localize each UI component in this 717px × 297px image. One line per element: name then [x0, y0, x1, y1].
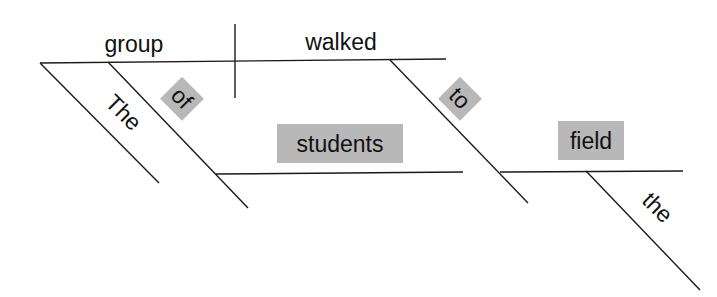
sentence-diagram: group walked The of students to field th…: [0, 0, 717, 297]
word-walked: walked: [304, 29, 377, 55]
word-group: group: [105, 31, 164, 57]
word-field: field: [570, 128, 612, 154]
modifier-line-the: [40, 63, 159, 183]
baseline: [40, 59, 446, 63]
object-line-field: [500, 171, 683, 172]
word-the-field: the: [637, 187, 678, 228]
object-line-students: [216, 172, 463, 174]
word-of: of: [166, 82, 198, 114]
modifier-line-the-field: [586, 171, 700, 290]
word-students: students: [297, 131, 384, 157]
